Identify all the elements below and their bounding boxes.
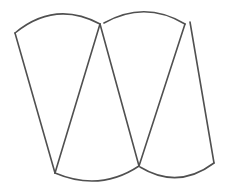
bottom-right-arc	[140, 163, 214, 178]
arc-group	[15, 12, 214, 181]
diagonal-1	[55, 24, 100, 173]
sketch-canvas	[0, 0, 229, 194]
cone-net-sketch	[0, 0, 229, 194]
top-left-arc	[15, 14, 100, 33]
diagonal-2	[100, 24, 139, 166]
right-edge	[190, 22, 214, 163]
diagonal-3	[139, 24, 185, 166]
left-edge	[15, 33, 55, 173]
line-group	[15, 22, 214, 173]
top-right-arc	[104, 12, 185, 24]
bottom-left-arc	[55, 166, 139, 181]
